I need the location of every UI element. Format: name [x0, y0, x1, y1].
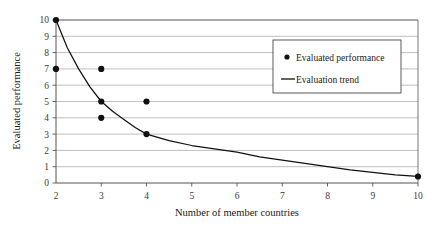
x-tick-label: 6	[235, 191, 240, 201]
y-tick-label: 8	[44, 48, 49, 58]
data-point	[53, 17, 59, 23]
x-tick-label: 5	[189, 191, 194, 201]
y-tick-label: 2	[44, 146, 49, 156]
data-point	[415, 173, 421, 179]
y-axis-ticks: 012345678910	[40, 15, 57, 188]
x-tick-label: 2	[54, 191, 59, 201]
y-tick-label: 3	[44, 130, 49, 140]
data-point	[143, 98, 149, 104]
x-axis-ticks: 2345678910	[54, 183, 423, 201]
y-tick-label: 5	[44, 97, 49, 107]
data-point	[53, 66, 59, 72]
legend-label-evaluated-performance: Evaluated performance	[296, 53, 384, 63]
x-tick-label: 10	[413, 191, 423, 201]
y-tick-label: 6	[44, 81, 49, 91]
x-tick-label: 7	[280, 191, 285, 201]
data-point	[98, 98, 104, 104]
legend-label-evaluation-trend: Evaluation trend	[296, 75, 359, 85]
x-tick-label: 3	[99, 191, 104, 201]
chart-legend: Evaluated performance Evaluation trend	[273, 40, 401, 93]
chart-figure: 012345678910 2345678910 Evaluated perfor…	[0, 0, 436, 235]
chart-canvas: 012345678910 2345678910 Evaluated perfor…	[0, 0, 436, 235]
y-tick-label: 7	[44, 64, 49, 74]
y-tick-label: 10	[40, 15, 50, 25]
y-tick-label: 0	[44, 178, 49, 188]
legend-marker-dot-icon	[284, 54, 289, 59]
data-point	[98, 66, 104, 72]
x-axis-title: Number of member countries	[175, 207, 299, 218]
x-tick-label: 4	[144, 191, 149, 201]
y-tick-label: 4	[44, 113, 49, 123]
legend-box	[273, 40, 401, 93]
data-point	[98, 115, 104, 121]
x-tick-label: 8	[325, 191, 330, 201]
x-tick-label: 9	[370, 191, 375, 201]
y-tick-label: 1	[44, 162, 49, 172]
data-point	[143, 131, 149, 137]
y-tick-label: 9	[44, 32, 49, 42]
y-axis-title: Evaluated performance	[11, 52, 22, 150]
